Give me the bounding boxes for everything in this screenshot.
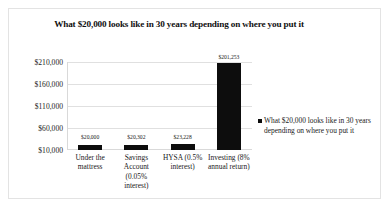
bar-group: $20,000 [67, 62, 113, 150]
x-axis-category-label: Investing (8% annual return) [206, 153, 252, 172]
legend-item-label: What $20,000 looks like in 30 years depe… [264, 116, 386, 135]
chart-legend: What $20,000 looks like in 30 years depe… [258, 116, 386, 135]
bar-group: $201,253 [206, 62, 252, 150]
chart-container: What $20,000 looks like in 30 years depe… [8, 8, 381, 199]
x-axis-category-labels: Under the mattress Savings Account (0.05… [67, 153, 252, 209]
bar-value-label: $20,302 [127, 134, 145, 140]
bar[interactable] [217, 63, 241, 150]
chart-title: What $20,000 looks like in 30 years depe… [39, 18, 319, 30]
y-axis-tick-label: $60,000 [19, 124, 63, 133]
y-axis-tick-labels: $210,000 $160,000 $110,000 $60,000 $10,0… [19, 62, 63, 150]
y-axis-tick-label: $210,000 [19, 58, 63, 67]
y-axis-tick-label: $110,000 [19, 102, 63, 111]
legend-swatch-icon [258, 119, 262, 123]
bar-group: $20,302 [113, 62, 159, 150]
bar[interactable] [171, 144, 195, 150]
x-axis-category-label: HYSA (0.5% interest) [160, 153, 206, 172]
bar[interactable] [124, 145, 148, 150]
bar[interactable] [78, 145, 102, 150]
bar-value-label: $23,228 [174, 134, 192, 140]
y-axis-tick-label: $160,000 [19, 80, 63, 89]
plot-area: $20,000 $20,302 $23,228 $201,253 [67, 62, 252, 150]
bar-group: $23,228 [160, 62, 206, 150]
x-axis-category-label: Savings Account (0.05% interest) [113, 153, 159, 191]
x-axis-category-label: Under the mattress [67, 153, 113, 172]
bar-value-label: $201,253 [218, 54, 239, 60]
y-axis-tick-label: $10,000 [19, 146, 63, 155]
bar-value-label: $20,000 [81, 134, 99, 140]
